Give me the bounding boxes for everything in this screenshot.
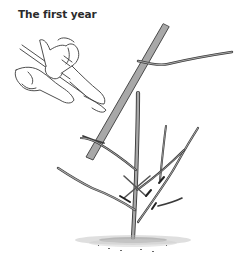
illustration-canvas: The first year <box>0 0 243 258</box>
cut-branch <box>83 24 232 160</box>
pruning-drawing <box>0 0 243 258</box>
young-tree <box>58 93 198 238</box>
hands-with-shears <box>15 38 106 112</box>
ground <box>75 235 191 252</box>
